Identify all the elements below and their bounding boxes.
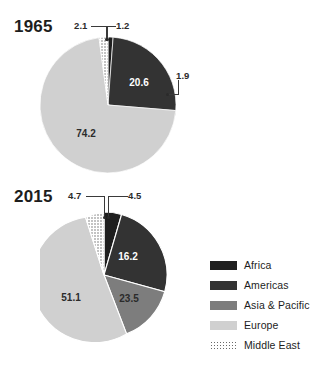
leader-line-h (108, 196, 128, 197)
legend: Africa Americas Asia & Pacific Europe Mi… (210, 256, 310, 356)
legend-swatch-middle-east (210, 341, 237, 350)
slice-label-1965-americas: 20.6 (129, 77, 149, 88)
leader-line-v (178, 80, 179, 95)
legend-item-africa[interactable]: Africa (210, 256, 310, 274)
leader-line-h (86, 196, 105, 197)
callout-label-1965-africa: 1.2 (116, 20, 130, 31)
legend-swatch-africa (210, 261, 237, 270)
legend-label-africa: Africa (244, 259, 271, 271)
slice-label-2015-europe: 51.1 (61, 292, 81, 303)
leader-dot (107, 216, 110, 219)
legend-label-europe: Europe (244, 319, 278, 331)
callout-label-2015-middle-east: 4.7 (68, 190, 82, 201)
legend-item-americas[interactable]: Americas (210, 276, 310, 294)
leader-line-h (107, 26, 116, 27)
legend-label-americas: Americas (244, 279, 289, 291)
slice-label-2015-americas: 16.2 (118, 251, 138, 262)
pie-1965-svg: 20.6 74.2 (38, 34, 178, 176)
legend-label-middle-east: Middle East (244, 339, 300, 351)
leader-line-v (108, 196, 109, 218)
leader-line-h (168, 94, 179, 95)
leader-dot (103, 216, 106, 219)
leader-dot (166, 93, 169, 96)
slice-label-2015-asia-pacific: 23.5 (119, 293, 139, 304)
leader-dot (106, 38, 109, 41)
legend-swatch-europe (210, 321, 237, 330)
callout-label-2015-africa: 4.5 (128, 190, 142, 201)
legend-label-asia-pacific: Asia & Pacific (244, 299, 310, 311)
legend-swatch-americas (210, 281, 237, 290)
pie-2015-svg: 16.2 23.5 51.1 (40, 208, 170, 342)
chart-title-2015: 2015 (14, 187, 53, 207)
leader-line-h (91, 26, 107, 27)
slice-label-1965-europe: 74.2 (76, 128, 96, 139)
legend-item-asia-pacific[interactable]: Asia & Pacific (210, 296, 310, 314)
legend-item-europe[interactable]: Europe (210, 316, 310, 334)
leader-line-v (104, 196, 105, 218)
legend-item-middle-east[interactable]: Middle East (210, 336, 310, 354)
legend-swatch-asia-pacific (210, 301, 237, 310)
pie-chart-1965: 20.6 74.2 (38, 34, 178, 176)
callout-label-1965-middle-east: 2.1 (74, 20, 88, 31)
pie-chart-2015: 16.2 23.5 51.1 (40, 208, 170, 342)
pie-chart-figure: 1965 20.6 74.2 2.1 (0, 0, 310, 367)
